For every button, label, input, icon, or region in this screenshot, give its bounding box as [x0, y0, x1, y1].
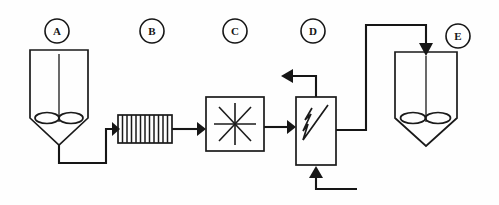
stream-b-to-c — [172, 122, 206, 136]
stirred-tank-a[interactable] — [30, 50, 88, 145]
tag-a-label: A — [53, 25, 61, 37]
unit-d-body — [296, 97, 336, 165]
stirred-tank-e[interactable] — [395, 52, 457, 146]
arrow-head-feed-up — [309, 166, 323, 178]
tag-e-label: E — [454, 30, 461, 42]
arrow-head-into-d — [287, 120, 296, 134]
equipment-tag-a[interactable]: A — [45, 19, 69, 43]
arrow-head-vent-left — [281, 69, 293, 83]
stream-d-bottom-feed — [309, 166, 357, 189]
tank-a-impeller-right — [59, 113, 83, 124]
equipment-tag-d[interactable]: D — [301, 19, 325, 43]
tag-c-label: C — [231, 25, 239, 37]
equipment-tag-e[interactable]: E — [446, 24, 470, 48]
stream-d-overhead-vent — [281, 69, 316, 97]
unit-d-zigzag-symbol — [303, 105, 328, 140]
process-flow-diagram: A B C D E — [0, 0, 499, 205]
heat-exchanger-d[interactable] — [296, 97, 336, 165]
unit-c-asterisk-symbol — [214, 103, 256, 145]
stream-c-to-d — [264, 120, 296, 134]
tag-d-label: D — [309, 25, 317, 37]
unit-b-hatching — [123, 115, 168, 143]
tank-e-impeller-right — [426, 113, 451, 124]
hatched-exchanger-b[interactable] — [118, 115, 172, 143]
arrow-head-into-e — [419, 43, 433, 56]
pfd-canvas: A B C D E — [0, 0, 499, 205]
tag-b-label: B — [148, 25, 156, 37]
equipment-tag-c[interactable]: C — [223, 19, 247, 43]
arrow-head-into-c — [197, 122, 206, 136]
stream-d-to-e — [336, 25, 433, 130]
stream-a-to-b — [59, 122, 120, 163]
mixer-c[interactable] — [206, 97, 264, 151]
tank-e-impeller-left — [401, 113, 426, 124]
equipment-tag-b[interactable]: B — [140, 19, 164, 43]
tank-a-impeller-left — [35, 113, 59, 124]
